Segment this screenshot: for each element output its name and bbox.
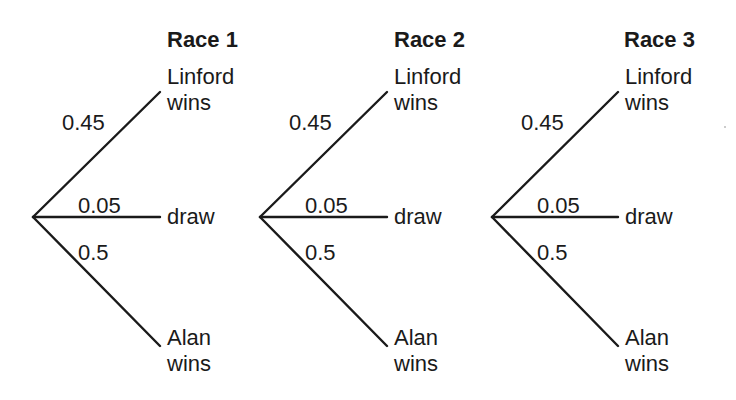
race1-branch-alan	[33, 217, 160, 346]
race1-outcome-alan: Alan wins	[167, 325, 277, 377]
race3-prob-linford: 0.45	[521, 110, 564, 136]
race1-outcome-linford: Linford wins	[167, 64, 277, 116]
race3-prob-alan: 0.5	[537, 240, 568, 266]
race2-prob-alan: 0.5	[305, 240, 336, 266]
race3-outcome-draw: draw	[625, 204, 735, 230]
race2-title: Race 2	[394, 27, 465, 53]
race1-title: Race 1	[167, 27, 238, 53]
race1-prob-alan: 0.5	[78, 240, 109, 266]
race2-outcome-linford: Linford wins	[394, 64, 504, 116]
race2-prob-linford: 0.45	[289, 110, 332, 136]
race2-prob-draw: 0.05	[305, 193, 348, 219]
race2-outcome-alan: Alan wins	[394, 325, 504, 377]
scan-speck	[724, 126, 726, 128]
race3-title: Race 3	[624, 27, 695, 53]
race2-outcome-draw: draw	[394, 204, 504, 230]
race1-prob-draw: 0.05	[78, 193, 121, 219]
race2-branch-alan	[260, 217, 387, 346]
race3-branch-alan	[492, 217, 618, 346]
race1-outcome-draw: draw	[167, 204, 277, 230]
race3-prob-draw: 0.05	[537, 193, 580, 219]
race3-outcome-alan: Alan wins	[625, 325, 735, 377]
race3-outcome-linford: Linford wins	[625, 64, 735, 116]
race1-prob-linford: 0.45	[62, 110, 105, 136]
